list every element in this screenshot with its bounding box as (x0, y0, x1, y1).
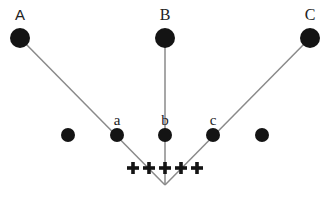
node-b (158, 128, 172, 142)
node-A (10, 28, 30, 48)
node-C (300, 28, 320, 48)
node-right-outer (255, 128, 269, 142)
node-a (110, 128, 124, 142)
label-B: B (160, 6, 171, 23)
plus-icon (127, 162, 139, 174)
line-A-to-apex (20, 38, 165, 185)
node-c (206, 128, 220, 142)
plus-icon (191, 162, 203, 174)
label-c: c (210, 112, 217, 128)
label-C: C (305, 6, 316, 23)
plus-sign-row (127, 162, 203, 174)
convergence-diagram: A B C a b c (0, 0, 322, 202)
node-B (155, 28, 175, 48)
label-a: a (114, 112, 121, 128)
label-A: A (15, 6, 25, 23)
node-left-outer (61, 128, 75, 142)
label-b: b (161, 112, 169, 128)
line-C-to-apex (165, 38, 310, 185)
plus-icon (159, 162, 171, 174)
